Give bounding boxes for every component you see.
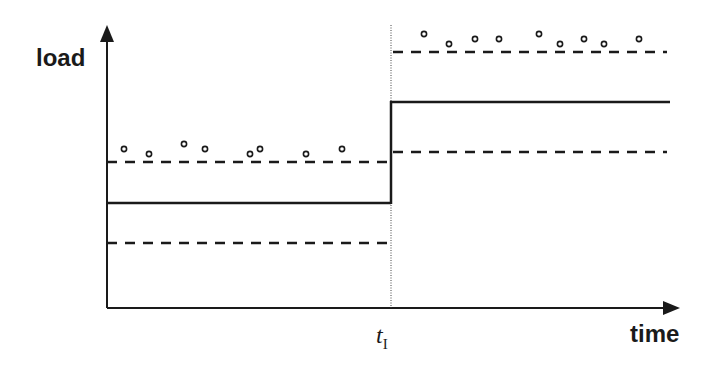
x-axis-arrow-icon (663, 301, 680, 315)
y-axis-label: load (36, 44, 85, 72)
t-subscript: I (383, 336, 388, 352)
t-symbol: t (376, 322, 383, 348)
load-vs-time-diagram: load time tI (0, 0, 713, 366)
x-axis-label: time (630, 320, 679, 348)
observations-after (421, 31, 641, 46)
intervention-time-label: tI (376, 322, 388, 353)
observations-before (121, 141, 344, 156)
y-axis-arrow-icon (100, 25, 114, 42)
